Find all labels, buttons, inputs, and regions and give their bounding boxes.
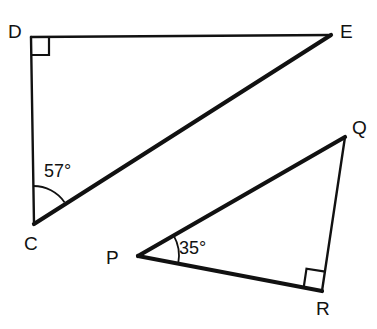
vertex-label-r: R xyxy=(316,298,330,319)
side-PR xyxy=(138,256,322,291)
side-QR xyxy=(322,137,345,291)
side-PQ xyxy=(138,137,345,256)
angle-arc-c xyxy=(33,186,64,202)
vertex-label-e: E xyxy=(340,21,353,42)
geometry-canvas: D E C 57° P Q R 35° xyxy=(0,0,377,329)
vertex-label-c: C xyxy=(24,233,38,254)
side-DC xyxy=(31,37,34,224)
vertex-label-d: D xyxy=(8,21,22,42)
side-DE xyxy=(31,35,331,37)
angle-label-c: 57° xyxy=(44,161,71,181)
geometry-figure: D E C 57° P Q R 35° xyxy=(0,0,377,329)
right-angle-marker-d xyxy=(31,37,49,55)
angle-label-p: 35° xyxy=(179,238,206,258)
side-CE xyxy=(34,35,331,224)
vertex-label-p: P xyxy=(106,247,119,268)
triangle-pqr: P Q R 35° xyxy=(106,117,367,319)
triangle-cde: D E C 57° xyxy=(8,21,353,254)
vertex-label-q: Q xyxy=(352,117,367,138)
